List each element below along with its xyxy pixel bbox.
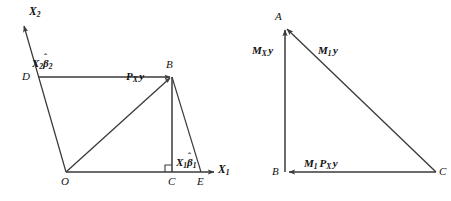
vector-label-px-y-sub: X [133,75,138,84]
vector-label-mx-y-tail: y [267,44,273,56]
vector-label-m1-px-y-second: P [318,157,327,169]
vector-label-m1-y-tail: y [332,44,338,56]
figure-root: X2 X1 D B O C E X2ˆβ2 PXy X1ˆβ1 A B C MX… [0,0,451,201]
vector-label-mx-y-sub: X [262,49,267,58]
vertex-label-o: O [61,176,69,187]
beta2-hat-mark: ˆ [43,53,48,62]
vector-label-x2-beta2-greeksub: 2 [49,62,53,71]
vertex-label-c-left: C [168,176,175,187]
vector-label-m1-px-y: M1PXy [304,158,338,169]
vector-label-m1-y-sub: 1 [328,49,332,58]
axis-label-x1-sub: 1 [226,168,230,177]
vector-label-px-y: PXy [126,71,144,82]
axis-label-x1: X1 [218,164,229,176]
right-angle-marker [165,165,172,172]
vector-label-x1-beta1-greeksub: 1 [193,161,197,170]
vector-label-m1-px-y-sub: 1 [314,162,318,171]
vertex-label-b-left: B [166,59,173,70]
vector-label-x1-beta1: X1ˆβ1 [176,157,196,168]
vector-label-m1-px-y-secondsub: X [326,162,331,171]
vector-label-m1-px-y-base: M [304,157,314,169]
beta2-hat-group: ˆβ [43,58,49,69]
vertex-label-d: D [22,71,30,82]
vertex-label-e: E [197,176,204,187]
vector-m1-y [287,29,436,172]
axis-x2-line [24,26,66,172]
right-diagram-group [285,29,436,172]
beta1-hat-mark: ˆ [187,152,192,161]
vector-label-px-y-base: P [126,70,133,82]
vertex-label-b-right: B [272,166,279,177]
vector-label-mx-y: MXy [252,45,273,56]
axis-label-x1-base: X [218,163,226,175]
vector-label-m1-px-y-tail: y [331,157,337,169]
vector-px-y [66,78,170,172]
vector-label-m1-y: M1y [318,45,338,56]
beta1-hat-group: ˆβ [187,157,193,168]
left-diagram-group [24,26,214,172]
vertex-label-a: A [275,11,282,22]
vector-label-m1-y-base: M [318,44,328,56]
vector-label-px-y-tail: y [138,70,144,82]
axis-label-x2: X2 [29,6,40,18]
vector-label-mx-y-base: M [252,44,262,56]
axis-label-x2-base: X [29,5,37,17]
vector-label-x2-beta2: X2ˆβ2 [32,58,52,69]
axis-label-x2-sub: 2 [37,10,41,19]
vertex-label-c-right: C [439,166,446,177]
